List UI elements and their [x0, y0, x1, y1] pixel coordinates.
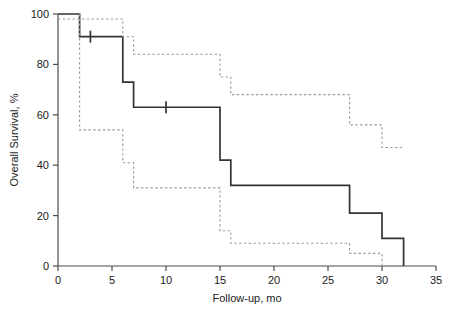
series-line — [80, 14, 404, 266]
censor-marks — [90, 31, 166, 114]
series-line — [58, 19, 404, 148]
x-tick-label: 30 — [376, 274, 388, 286]
x-axis-ticks: 05101520253035 — [55, 266, 442, 286]
x-tick-label: 0 — [55, 274, 61, 286]
x-tick-label: 15 — [214, 274, 226, 286]
x-tick-label: 5 — [109, 274, 115, 286]
series-line — [58, 14, 404, 266]
y-tick-label: 80 — [37, 58, 49, 70]
survival-chart: 05101520253035 020406080100 Follow-up, m… — [0, 0, 466, 316]
y-axis-title: Overall Survival, % — [8, 93, 20, 186]
y-tick-label: 20 — [37, 210, 49, 222]
x-axis-title: Follow-up, mo — [212, 292, 281, 304]
y-axis-ticks: 020406080100 — [31, 8, 58, 272]
axis-lines — [58, 14, 436, 266]
x-tick-label: 20 — [268, 274, 280, 286]
series-layer — [58, 14, 404, 266]
y-tick-label: 40 — [37, 159, 49, 171]
x-tick-label: 35 — [430, 274, 442, 286]
y-tick-label: 60 — [37, 109, 49, 121]
x-tick-label: 10 — [160, 274, 172, 286]
y-tick-label: 0 — [43, 260, 49, 272]
chart-canvas: 05101520253035 020406080100 Follow-up, m… — [0, 0, 466, 316]
x-tick-label: 25 — [322, 274, 334, 286]
y-tick-label: 100 — [31, 8, 49, 20]
